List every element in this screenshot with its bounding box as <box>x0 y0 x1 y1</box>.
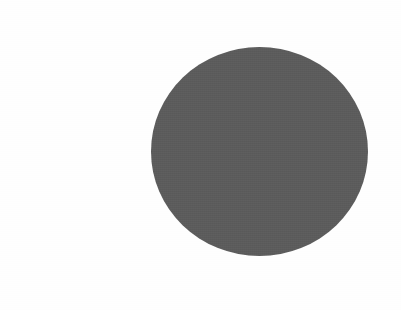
shape-layer <box>0 0 401 310</box>
vector-surface <box>0 0 401 310</box>
gray-disc-shape <box>151 47 368 256</box>
image-canvas <box>0 0 401 310</box>
